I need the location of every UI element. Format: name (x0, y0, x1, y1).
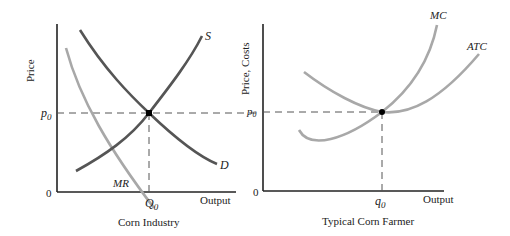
s-label: S (205, 29, 211, 43)
left-origin-label: 0 (46, 187, 52, 199)
right-x-axis-label: Output (423, 193, 454, 205)
left-equilibrium-point (146, 110, 152, 116)
right-q0-label: q0 (375, 194, 386, 210)
chart-figure: S D MR 0 Output Corn Industry Price p0 Q… (0, 0, 510, 236)
right-origin-label: 0 (253, 186, 259, 198)
mr-label: MR (112, 177, 129, 189)
left-panel-corn-industry: S D MR 0 Output Corn Industry Price p0 Q… (24, 24, 258, 228)
left-x-axis-label: Output (200, 194, 231, 206)
right-y-axis-label: Price, Costs (239, 42, 251, 95)
left-q0-label: Q0 (145, 196, 159, 212)
left-panel-title: Corn Industry (118, 216, 180, 228)
right-panel-title: Typical Corn Farmer (322, 215, 414, 227)
right-p0-label: p0 (246, 105, 257, 119)
left-p0-label: p0 (40, 106, 52, 122)
right-equilibrium-point (379, 109, 385, 115)
right-panel-typical-corn-farmer: MC ATC 0 Output Typical Corn Farmer Pric… (239, 9, 487, 227)
d-label: D (219, 158, 229, 172)
left-y-axis-label: Price (24, 59, 36, 82)
atc-label: ATC (466, 40, 487, 52)
mc-label: MC (429, 9, 447, 21)
